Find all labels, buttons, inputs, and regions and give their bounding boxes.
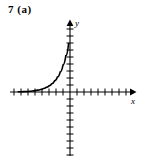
- y-axis-label: y: [74, 18, 79, 28]
- coordinate-plot: x y: [0, 0, 141, 160]
- y-axis-arrowhead: [67, 20, 74, 27]
- figure-container: 7 (a): [0, 0, 141, 160]
- x-axis-arrowhead: [130, 89, 137, 96]
- x-axis-label: x: [130, 96, 135, 106]
- exponential-curve: [18, 44, 68, 92]
